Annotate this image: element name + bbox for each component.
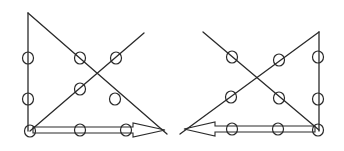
- dot-circle: [110, 93, 121, 105]
- panel-right: [180, 32, 324, 136]
- dot-circle: [111, 52, 122, 64]
- dot-circle: [274, 54, 285, 66]
- dot-circle: [75, 83, 86, 95]
- connecting-line: [30, 33, 144, 131]
- connecting-line: [203, 32, 319, 130]
- diagram-canvas: [0, 0, 344, 151]
- nine-dot-puzzle-diagram: [0, 0, 344, 151]
- arrow-left-icon: [184, 122, 315, 136]
- arrow-right-icon: [33, 123, 165, 137]
- dot-circle: [313, 51, 324, 63]
- panel-left: [23, 13, 168, 137]
- dot-circle: [274, 92, 285, 104]
- dot-circle: [313, 93, 324, 105]
- connecting-line: [180, 32, 319, 134]
